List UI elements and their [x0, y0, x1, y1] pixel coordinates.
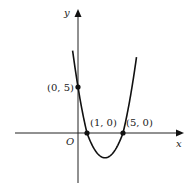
point-marker — [120, 130, 125, 135]
point-label: (0, 5) — [47, 82, 74, 93]
x-axis-arrow-icon — [176, 130, 184, 137]
point-label: (5, 0) — [126, 117, 153, 128]
point-label: (1, 0) — [90, 117, 117, 128]
y-axis-arrow-icon — [75, 9, 82, 17]
parabola-curve — [73, 51, 137, 158]
point-marker — [75, 84, 80, 89]
y-axis-label: y — [63, 7, 70, 18]
x-axis-label: x — [176, 138, 182, 149]
quadratic-graph: (0, 5)(1, 0)(5, 0) x y O — [0, 0, 187, 192]
point-marker — [84, 130, 89, 135]
origin-label: O — [66, 136, 74, 147]
